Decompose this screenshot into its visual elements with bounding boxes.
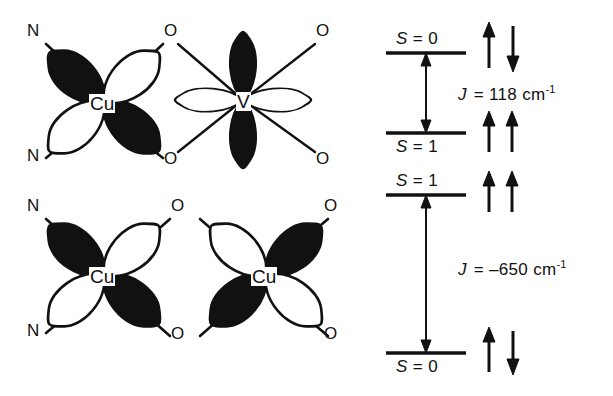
spin-value: = 1 (408, 137, 438, 156)
donor-label-o: O (164, 150, 177, 167)
spin-pair-s0-upper (483, 22, 519, 72)
spin-symbol: S (396, 357, 408, 376)
j-equals: = (474, 85, 484, 104)
metal-label-cu: Cu (251, 267, 277, 286)
j-unit: cm (533, 260, 556, 279)
metal-label-cu: Cu (89, 267, 115, 286)
spin-pair-s1-upper (483, 171, 518, 212)
metal-label-cu: Cu (89, 94, 115, 113)
donor-label-o: O (324, 197, 337, 214)
donor-label-n: N (27, 197, 39, 214)
magnetic-orbital-and-energy-level-figure (0, 0, 613, 396)
donor-label-o: O (316, 22, 329, 39)
donor-label-o: O (171, 197, 184, 214)
spin-symbol: S (396, 171, 408, 190)
spin-symbol: S (396, 29, 408, 48)
j-symbol: J (458, 260, 474, 279)
level-label-s0-lower: S = 0 (396, 358, 438, 375)
j-value: 118 (489, 85, 517, 104)
donor-label-o: O (324, 325, 337, 342)
spin-symbol: S (396, 137, 408, 156)
panel-cu-cu (36, 211, 333, 338)
j-value: –650 (489, 260, 528, 279)
donor-label-n: N (27, 22, 39, 39)
level-label-s0-upper: S = 0 (396, 30, 438, 47)
donor-label-o: O (164, 22, 177, 39)
coupling-constant-antiferromagnetic: J= –650 cm-1 (458, 261, 567, 278)
energy-level-diagram (386, 22, 519, 375)
donor-label-o: O (171, 325, 184, 342)
spin-pair-s1-lower (483, 111, 518, 152)
spin-value: = 0 (408, 357, 438, 376)
j-unit: cm (522, 85, 545, 104)
metal-label-v: V (236, 92, 251, 111)
panel-cu-v (36, 32, 315, 168)
donor-label-n: N (27, 147, 39, 164)
spin-pair-s0-lower (483, 327, 519, 375)
coupling-constant-ferromagnetic: J= 118 cm-1 (458, 86, 556, 103)
j-equals: = (474, 260, 484, 279)
transition-arrow-118 (421, 53, 431, 133)
j-unit-exponent: -1 (545, 83, 555, 95)
level-label-s1-upper: S = 1 (396, 172, 438, 189)
j-symbol: J (458, 85, 474, 104)
spin-value: = 0 (408, 29, 438, 48)
j-unit-exponent: -1 (556, 258, 566, 270)
donor-label-n: N (27, 322, 39, 339)
transition-arrow-650 (421, 195, 431, 353)
level-label-s1-lower: S = 1 (396, 138, 438, 155)
donor-label-o: O (316, 150, 329, 167)
spin-value: = 1 (408, 171, 438, 190)
